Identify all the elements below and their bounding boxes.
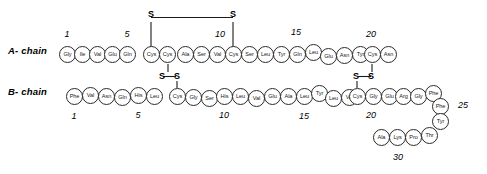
b-residue-17: Leu xyxy=(325,90,342,107)
a-chain-number-20: 20 xyxy=(363,29,379,39)
b-residue-20: Gly xyxy=(365,88,382,105)
a-residue-14: Tyr xyxy=(273,46,290,63)
a-residue-8: Ala xyxy=(177,46,194,63)
b-chain-number-25: 25 xyxy=(455,100,471,110)
a-residue-11-label: Cys xyxy=(229,52,238,58)
b-residue-28-label: Pro xyxy=(409,135,417,141)
b-chain-number-20: 20 xyxy=(363,110,379,120)
a-residue-5: Gln xyxy=(119,46,136,63)
a-residue-20: Cys xyxy=(364,46,381,63)
b-residue-24-label: Phe xyxy=(429,91,439,97)
a-chain-label: A- chain xyxy=(8,45,47,56)
b-chain-number-5: 5 xyxy=(131,110,145,120)
b-residue-25-label: Phe xyxy=(436,104,446,110)
a-residue-21: Asn xyxy=(380,46,397,63)
b-residue-10: His xyxy=(216,88,233,105)
a-residue-18: Asn xyxy=(336,47,353,64)
a-residue-12: Ser xyxy=(241,46,258,63)
a-residue-13: Leu xyxy=(257,46,274,63)
a-residue-9-label: Ser xyxy=(197,52,205,58)
b-chain-number-10: 10 xyxy=(216,110,232,120)
b-residue-27-label: Thr xyxy=(425,133,433,139)
b-residue-19-label: Cys xyxy=(353,94,362,100)
b-chain-label: B- chain xyxy=(8,86,47,97)
sulfur-label-a6: S xyxy=(148,10,154,19)
b-residue-13: Glu xyxy=(264,88,281,105)
b-residue-17-label: Leu xyxy=(329,96,338,102)
b-chain-number-30: 30 xyxy=(390,152,406,162)
b-residue-22-label: Arg xyxy=(399,94,407,100)
b-chain-number-15: 15 xyxy=(296,111,312,121)
a-residue-6-label: Cys xyxy=(147,52,156,58)
b-residue-7: Cys xyxy=(169,88,186,105)
a-residue-8-label: Ala xyxy=(182,52,190,58)
b-residue-4-label: Gln xyxy=(118,95,126,101)
a-residue-7-label: Cys xyxy=(163,52,172,58)
b-residue-29: Lys xyxy=(389,129,406,146)
insulin-structure-diagram: A- chain B- chain 1 5 10 15 20 Gly Ile V… xyxy=(0,0,487,174)
a-residue-7: Cys xyxy=(159,46,176,63)
sulfur-label-a11: S xyxy=(230,10,236,19)
b-residue-8-label: Gly xyxy=(189,95,197,101)
b-residue-11-label: Leu xyxy=(236,94,245,100)
b-residue-23-label: Gly xyxy=(414,94,422,100)
a-residue-12-label: Ser xyxy=(245,52,253,58)
a-residue-6: Cys xyxy=(143,46,160,63)
b-residue-14: Ala xyxy=(280,88,297,105)
b-residue-7-label: Cys xyxy=(173,94,182,100)
b-residue-26-label: Tyr xyxy=(437,119,444,125)
b-residue-30-label: Ala xyxy=(378,135,386,141)
a-residue-17-label: Glu xyxy=(324,54,332,60)
a-residue-20-label: Cys xyxy=(368,52,377,58)
b-residue-28: Pro xyxy=(405,129,422,146)
a-residue-14-label: Tyr xyxy=(278,52,285,58)
sulfur-label-a20: S xyxy=(368,72,374,81)
a-residue-21-label: Asn xyxy=(384,52,393,58)
a-residue-1-label: Gly xyxy=(63,52,71,58)
a-residue-18-label: Asn xyxy=(340,53,349,59)
b-residue-21-label: Glu xyxy=(385,94,393,100)
b-residue-6: Leu xyxy=(146,88,163,105)
a-residue-10-label: Val xyxy=(214,52,221,58)
b-residue-5-label: His xyxy=(135,93,143,99)
b-residue-10-label: His xyxy=(221,94,229,100)
a-chain-number-15: 15 xyxy=(288,27,304,37)
b-residue-2-label: Val xyxy=(87,93,94,99)
b-residue-12-label: Val xyxy=(253,96,260,102)
sulfur-label-a7: S xyxy=(159,72,165,81)
a-residue-2-label: Ile xyxy=(80,52,86,58)
a-residue-4-label: Glu xyxy=(108,52,116,58)
sulfur-label-b7: S xyxy=(174,72,180,81)
b-residue-11: Leu xyxy=(232,88,249,105)
b-residue-4: Gln xyxy=(114,89,131,106)
a-residue-5-label: Gln xyxy=(123,52,131,58)
b-residue-8: Gly xyxy=(185,89,202,106)
b-residue-5: His xyxy=(130,87,147,104)
a-residue-9: Ser xyxy=(193,46,210,63)
a-residue-13-label: Leu xyxy=(261,52,270,58)
b-residue-30: Ala xyxy=(373,129,390,146)
b-residue-26: Tyr xyxy=(432,113,449,130)
b-residue-9-label: Ser xyxy=(205,96,213,102)
b-residue-13-label: Glu xyxy=(268,94,276,100)
b-residue-19: Cys xyxy=(349,88,366,105)
b-residue-27: Thr xyxy=(421,127,438,144)
a-chain-number-10: 10 xyxy=(212,29,228,39)
b-residue-12: Val xyxy=(248,90,265,107)
a-residue-11: Cys xyxy=(225,46,242,63)
sulfur-label-b19: S xyxy=(353,72,359,81)
a-residue-17: Glu xyxy=(320,48,337,65)
a-chain-number-5: 5 xyxy=(120,29,134,39)
b-residue-14-label: Ala xyxy=(285,94,293,100)
b-residue-1: Phe xyxy=(66,88,83,105)
a-residue-3-label: Val xyxy=(94,52,101,58)
b-residue-3-label: Asn xyxy=(102,94,111,100)
b-residue-6-label: Leu xyxy=(150,94,159,100)
b-residue-15-label: Leu xyxy=(300,94,309,100)
a-residue-10: Val xyxy=(209,46,226,63)
a-residue-15: Gln xyxy=(289,46,306,63)
a-residue-16-label: Leu xyxy=(309,50,318,56)
b-chain-number-1: 1 xyxy=(67,111,81,121)
b-residue-3: Asn xyxy=(98,88,115,105)
b-residue-20-label: Gly xyxy=(369,94,377,100)
